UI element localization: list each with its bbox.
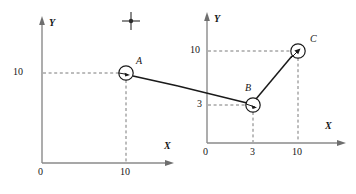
joint-circle-A — [119, 66, 133, 80]
point-label-B: B — [245, 83, 251, 93]
left-x-axis-arrow — [165, 160, 174, 166]
left-x-tick-10: 10 — [120, 167, 130, 177]
cross-marker — [122, 12, 140, 30]
left-x-axis-label: X — [164, 141, 171, 151]
point-label-A: A — [136, 56, 142, 66]
right-link-segment-BC — [256, 56, 292, 99]
point-label-C: C — [310, 34, 317, 44]
left-link-segment — [133, 76, 178, 86]
right-x-tick-10: 10 — [292, 147, 302, 157]
diagram-svg — [0, 0, 356, 194]
right-y-tick-3: 3 — [197, 99, 202, 109]
right-y-tick-10: 10 — [190, 45, 200, 55]
right-link-segment-in — [178, 86, 247, 103]
right-x-axis-label: X — [325, 121, 332, 131]
left-plot-group — [39, 12, 178, 166]
left-y-axis-label: Y — [49, 18, 55, 28]
right-x-tick-3: 3 — [250, 147, 255, 157]
right-joint-B-arrow-head — [251, 105, 257, 109]
left-y-axis-arrow — [39, 16, 45, 25]
right-y-axis-arrow — [204, 12, 210, 21]
left-origin-label: 0 — [38, 167, 43, 177]
figure-canvas: Y X 10 0 10 A Y X 10 3 0 3 10 B C — [0, 0, 356, 194]
left-y-tick-10: 10 — [13, 67, 23, 77]
right-origin-label: 0 — [203, 147, 208, 157]
right-y-axis-label: Y — [214, 14, 220, 24]
right-plot-group — [178, 12, 346, 146]
right-x-axis-arrow — [337, 140, 346, 146]
